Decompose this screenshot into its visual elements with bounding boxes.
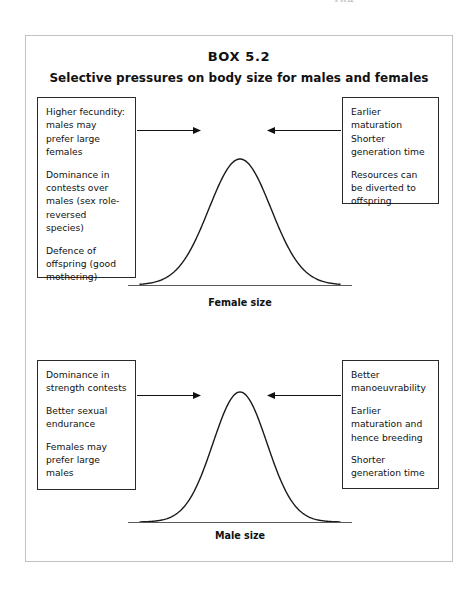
- male-axis-label: Male size: [120, 530, 360, 541]
- female-curve-path: [140, 159, 340, 284]
- female-axis-label: Female size: [120, 297, 360, 308]
- male-size-distribution-panel: Male size: [120, 378, 360, 563]
- callout-paragraph: Better manoeuvrability: [351, 368, 430, 395]
- callout-paragraph: Earlier maturation Shorter generation ti…: [351, 105, 430, 159]
- callout-paragraph: Resources can be diverted to offspring: [351, 168, 430, 208]
- callout-paragraph: Higher fecundity: males may prefer large…: [46, 105, 127, 159]
- callout-paragraph: Shorter generation time: [351, 453, 430, 480]
- female-distribution-curve: [120, 140, 360, 300]
- callout-paragraph: Dominance in contests over males (sex ro…: [46, 168, 127, 235]
- callout-paragraph: Females may prefer large males: [46, 440, 127, 480]
- callout-paragraph: Better sexual endurance: [46, 404, 127, 431]
- figure-title: Selective pressures on body size for mal…: [26, 71, 452, 85]
- box-number-heading: BOX 5.2: [26, 49, 452, 64]
- callout-paragraph: Earlier maturation and hence breeding: [351, 404, 430, 444]
- male-distribution-curve: [120, 378, 360, 533]
- page-number-fragment: 184: [333, 0, 355, 2]
- male-curve-path: [140, 392, 340, 522]
- callout-paragraph: Dominance in strength contests: [46, 368, 127, 395]
- female-size-distribution-panel: Female size: [120, 140, 360, 330]
- callout-paragraph: Defence of offspring (good mothering): [46, 244, 127, 284]
